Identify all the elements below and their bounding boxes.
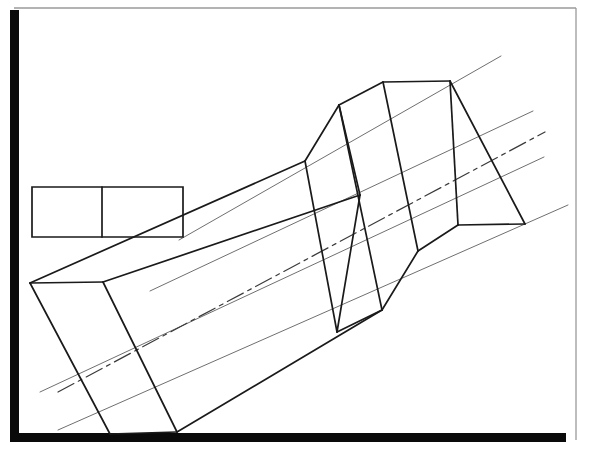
drawing-background bbox=[0, 0, 589, 455]
border-bottom-bar bbox=[10, 433, 566, 442]
prism-right-end-horizontal-edge bbox=[458, 224, 525, 225]
drawing-page bbox=[0, 0, 589, 455]
prism-top-horizontal-edge bbox=[383, 81, 450, 82]
technical-drawing-canvas bbox=[0, 0, 589, 455]
border-left-bar bbox=[10, 10, 19, 442]
tube-left-end-top-edge bbox=[30, 282, 103, 283]
